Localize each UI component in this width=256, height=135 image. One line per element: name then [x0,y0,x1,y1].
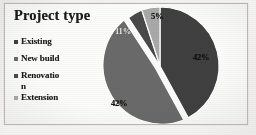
chart-legend: Existing New build Renovatio n Extension [14,37,92,110]
slice-label-extension: 5% [151,11,163,21]
legend-item-renovation[interactable]: Renovatio [14,71,92,80]
slice-label-existing: 42% [193,52,209,62]
legend-item-new-build[interactable]: New build [14,54,92,63]
slice-label-new-build: 42% [111,98,127,108]
slice-label-renovation: 11% [115,26,131,36]
page-title: Project type [14,7,90,24]
legend-item-existing[interactable]: Existing [14,37,92,46]
legend-swatch-icon [14,74,18,78]
pie-chart-screenshot: Project type Existing New build Renovati… [0,0,256,135]
legend-swatch-icon [14,57,18,61]
pie-chart: 42% 42% 11% 5% [83,4,247,124]
legend-swatch-icon [14,40,18,44]
legend-swatch-icon [14,96,18,100]
legend-item-label: Extension [21,93,58,102]
legend-item-label-wrap: n [21,82,26,91]
pie-chart-svg [83,4,247,124]
legend-item-extension[interactable]: Extension [14,93,92,102]
legend-item-renovation-wrap: n [21,82,92,91]
chart-frame: Project type Existing New build Renovati… [4,3,248,125]
legend-item-label: Existing [21,37,52,46]
legend-item-label: New build [21,54,59,63]
legend-item-label: Renovatio [21,71,59,80]
